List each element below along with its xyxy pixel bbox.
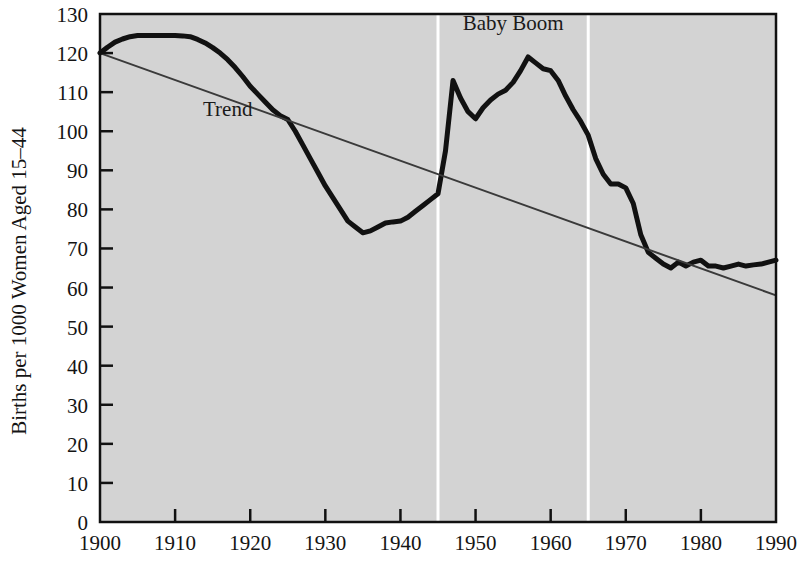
x-tick-label: 1930 [304, 531, 346, 555]
trend-label: Trend [203, 97, 253, 121]
y-axis-title: Births per 1000 Women Aged 15–44 [7, 127, 31, 435]
x-tick-label: 1990 [755, 531, 797, 555]
x-tick-label: 1900 [79, 531, 121, 555]
y-tick-label: 40 [67, 355, 88, 379]
y-tick-label: 60 [67, 277, 88, 301]
x-tick-label: 1920 [229, 531, 271, 555]
x-tick-label: 1940 [379, 531, 421, 555]
x-tick-label: 1980 [680, 531, 722, 555]
chart-canvas: 0102030405060708090100110120130 19001910… [0, 0, 803, 563]
y-tick-label: 10 [67, 472, 88, 496]
y-tick-label: 120 [57, 42, 89, 66]
x-tick-label: 1950 [455, 531, 497, 555]
x-axis-tick-labels: 1900191019201930194019501960197019801990 [79, 531, 797, 555]
x-tick-label: 1910 [154, 531, 196, 555]
y-tick-label: 30 [67, 394, 88, 418]
y-tick-label: 90 [67, 159, 88, 183]
y-axis-tick-labels: 0102030405060708090100110120130 [57, 3, 89, 535]
y-tick-label: 20 [67, 433, 88, 457]
y-tick-label: 70 [67, 237, 88, 261]
x-tick-label: 1970 [605, 531, 647, 555]
y-tick-label: 130 [57, 3, 89, 27]
y-tick-label: 50 [67, 316, 88, 340]
birth-rate-chart-figure: 0102030405060708090100110120130 19001910… [0, 0, 803, 563]
y-tick-label: 100 [57, 120, 89, 144]
x-tick-label: 1960 [530, 531, 572, 555]
baby-boom-label: Baby Boom [463, 11, 564, 35]
y-tick-label: 110 [57, 81, 88, 105]
y-tick-label: 80 [67, 198, 88, 222]
